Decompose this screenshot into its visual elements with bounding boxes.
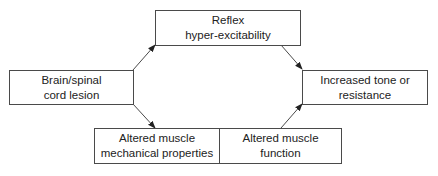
node-label-line: resistance [339, 88, 391, 103]
arrow-lesion-to-mechanical [133, 104, 155, 128]
node-altered-muscle-function: Altered muscle function [219, 128, 342, 164]
node-reflex-hyper-excitability: Reflex hyper-excitability [155, 10, 301, 46]
node-altered-mechanical-properties: Altered muscle mechanical properties [94, 128, 220, 164]
node-brain-spinal-cord-lesion: Brain/spinal cord lesion [9, 70, 134, 105]
node-label-line: mechanical properties [101, 146, 214, 161]
node-label-line: Brain/spinal [41, 73, 101, 88]
node-label-line: Altered muscle [242, 131, 318, 146]
arrow-reflex-to-tone [301, 45, 302, 70]
node-label-line: hyper-excitability [185, 28, 271, 43]
node-label-line: Reflex [212, 13, 245, 28]
node-label-line: function [260, 146, 300, 161]
node-label-line: Increased tone or [320, 73, 410, 88]
arrow-reflex-to-tone-line [281, 45, 302, 69]
arrow-function-to-tone [281, 104, 302, 128]
node-increased-tone: Increased tone or resistance [302, 70, 428, 105]
node-label-line: Altered muscle [119, 131, 195, 146]
node-label-line: cord lesion [44, 88, 100, 103]
arrow-lesion-to-reflex [133, 45, 155, 70]
